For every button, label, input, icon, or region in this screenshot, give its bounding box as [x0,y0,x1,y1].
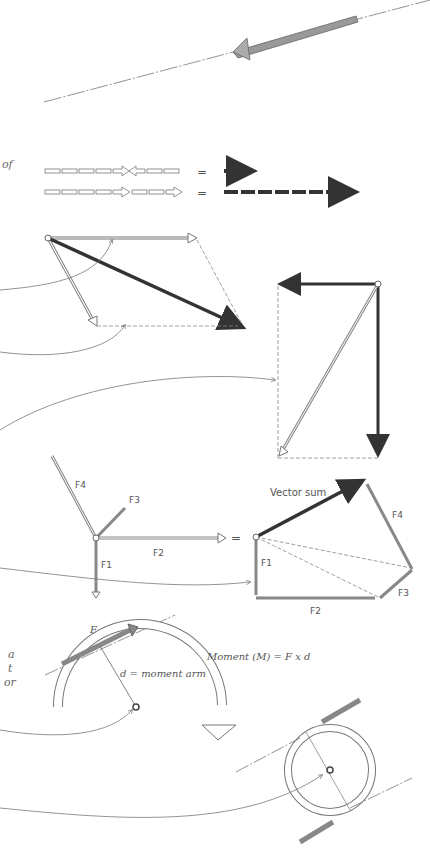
svg-text:=: = [231,531,241,545]
concurrent-forces-diagram: F4 F3 F2 F1 = [0,456,250,598]
svg-text:=: = [197,186,207,200]
svg-text:d = moment arm: d = moment arm [120,668,206,679]
svg-text:F2: F2 [310,606,321,616]
parallelogram-diagram [0,233,242,355]
svg-text:F4: F4 [392,510,403,520]
svg-text:F2: F2 [153,548,164,558]
svg-text:F4: F4 [75,480,86,490]
svg-text:F: F [89,624,98,635]
left-text-fragment: or [4,676,16,689]
left-text-fragment: a [8,648,15,661]
svg-text:=: = [197,165,207,179]
force-polygon-diagram: Vector sum F4 F1 F2 F3 [253,482,412,616]
svg-text:F3: F3 [398,588,409,598]
left-text-fragment: of [2,158,13,171]
svg-text:F3: F3 [129,495,140,505]
collinear-vectors-row-2: = [45,186,352,200]
svg-text:F1: F1 [101,560,112,570]
line-of-action-diagram [44,0,430,102]
rectangle-resolution-diagram [0,281,381,458]
left-text-fragment: t [8,662,12,675]
svg-text:Moment (M) = F x d: Moment (M) = F x d [206,651,310,662]
couple-diagram [0,700,412,842]
svg-text:F1: F1 [261,558,272,568]
svg-text:Vector sum: Vector sum [270,487,326,498]
collinear-vectors-row-1: = [45,165,250,179]
vector-diagram-canvas: = = [0,0,430,858]
moment-diagram: F d = moment arm Moment (M) = F x d [0,615,310,740]
